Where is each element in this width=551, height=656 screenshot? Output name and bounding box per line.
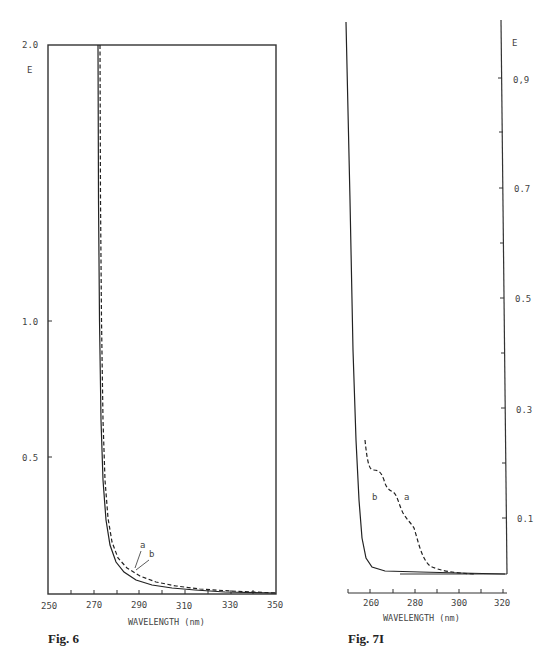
fig7-ytick-0.9: 0,9 [513,75,529,85]
fig7-caption: Fig. 7I [348,631,384,646]
fig7-chart: E 0,9 0.7 0.5 0.3 0.1 260 280 300 320 WA… [346,20,533,646]
fig6-xlabel: WAVELENGTH (nm) [128,617,205,627]
fig7-label-a: a [404,492,409,502]
fig7-xtick-320: 320 [494,598,510,608]
fig6-ytick-0.5: 0.5 [22,453,38,463]
fig6-chart: 2.0 E 1.0 0.5 250 270 290 310 330 350 WA… [22,40,283,646]
fig6-curve-b [98,45,276,593]
fig7-ytick-0.5: 0.5 [515,294,531,304]
fig7-curve-a [365,440,475,574]
fig7-ytick-0.7: 0.7 [514,184,530,194]
fig7-curve-b [346,22,505,574]
figure-canvas: 2.0 E 1.0 0.5 250 270 290 310 330 350 WA… [0,0,551,656]
fig6-xtick-290: 290 [131,600,147,610]
fig6-curve-a [100,45,276,593]
fig6-caption: Fig. 6 [48,631,80,646]
fig6-xtick-270: 270 [86,600,102,610]
fig7-xtick-260: 260 [363,598,379,608]
fig7-xlabel: WAVELENGTH (nm) [383,613,460,623]
fig6-ylabel: E [27,65,32,75]
fig6-label-b: b [149,549,154,559]
fig6-xtick-350: 350 [267,600,283,610]
fig6-leader-a [135,551,141,568]
fig6-ytick-1.0: 1.0 [22,317,38,327]
fig7-label-b: b [372,492,377,502]
fig6-xtick-330: 330 [222,600,238,610]
fig6-xtick-310: 310 [176,601,192,611]
fig7-xtick-280: 280 [407,598,423,608]
fig7-ytick-0.3: 0.3 [516,405,532,415]
fig6-label-a: a [140,540,145,550]
fig6-plot-frame [48,45,276,594]
fig7-ytick-0.1: 0.1 [517,514,533,524]
fig6-leader-b [136,560,149,570]
fig7-y-axis [501,20,507,574]
fig7-ylabel: E [512,38,517,48]
fig6-ytick-2.0: 2.0 [22,40,38,50]
fig7-xtick-300: 300 [451,598,467,608]
fig6-xtick-250: 250 [41,601,57,611]
